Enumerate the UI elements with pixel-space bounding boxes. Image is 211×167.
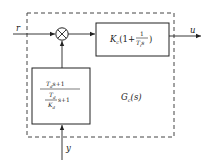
pi-close: ): [149, 34, 152, 44]
pi-gain: Kc(1+: [109, 34, 135, 45]
summing-junction: [56, 28, 68, 40]
input-r-label: r: [16, 23, 21, 33]
filter-den-rest: s+1: [58, 96, 70, 103]
controller-label: Gc(s): [121, 92, 142, 103]
output-u-label: u: [190, 25, 195, 35]
block-diagram: r Kc(1+ 1 Tis ) u Tds+1 Td Kd: [0, 0, 211, 167]
feedback-y-label: y: [65, 143, 71, 153]
pi-frac-num: 1: [140, 30, 144, 37]
